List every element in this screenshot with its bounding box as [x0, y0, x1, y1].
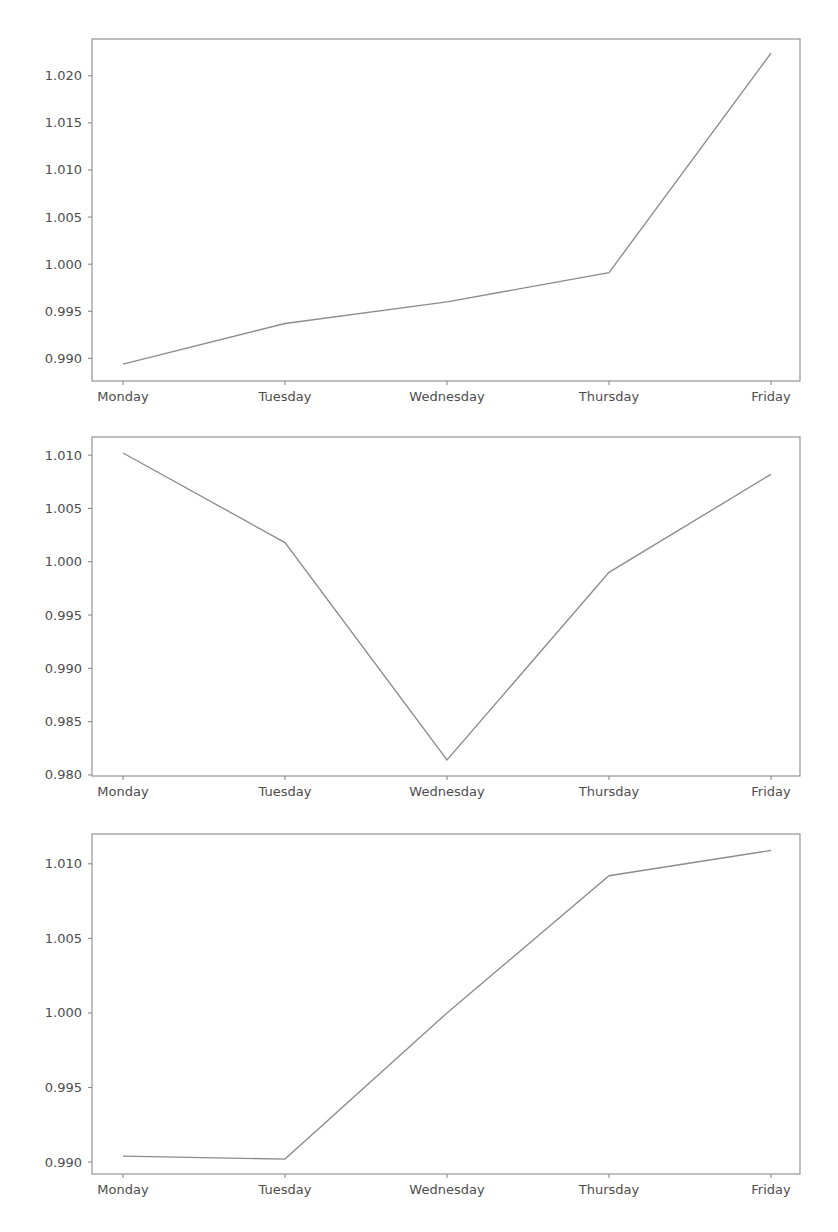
x-tick-label: Wednesday: [409, 1182, 485, 1197]
subplot-3-canvas: 0.9900.9951.0001.0051.010MondayTuesdayWe…: [0, 795, 838, 1232]
y-tick-label: 0.990: [45, 1155, 82, 1170]
subplot-3: 0.9900.9951.0001.0051.010MondayTuesdayWe…: [0, 795, 838, 1232]
y-tick-label: 1.020: [45, 68, 82, 83]
data-line-series-1: [123, 53, 771, 364]
subplot-2: 0.9800.9850.9900.9951.0001.0051.010Monda…: [0, 398, 838, 808]
x-tick-label: Friday: [751, 1182, 791, 1197]
subplot-2-canvas: 0.9800.9850.9900.9951.0001.0051.010Monda…: [0, 398, 838, 808]
subplot-1: 0.9900.9951.0001.0051.0101.0151.020Monda…: [0, 0, 838, 412]
y-tick-label: 0.990: [45, 351, 82, 366]
matplotlib-figure: 0.9900.9951.0001.0051.0101.0151.020Monda…: [0, 0, 838, 1232]
y-tick-label: 1.000: [45, 1005, 82, 1020]
y-tick-label: 0.990: [45, 661, 82, 676]
x-tick-label: Monday: [97, 1182, 149, 1197]
subplot-1-canvas: 0.9900.9951.0001.0051.0101.0151.020Monda…: [0, 0, 838, 412]
data-line-series-3: [123, 850, 771, 1159]
data-line-series-2: [123, 453, 771, 760]
y-tick-label: 0.985: [45, 714, 82, 729]
plot-frame: [92, 39, 800, 381]
y-tick-label: 1.010: [45, 162, 82, 177]
y-tick-label: 1.005: [45, 210, 82, 225]
y-tick-label: 1.010: [45, 448, 82, 463]
plot-frame: [92, 437, 800, 776]
x-tick-label: Tuesday: [258, 1182, 312, 1197]
x-tick-label: Thursday: [578, 1182, 640, 1197]
y-tick-label: 0.995: [45, 608, 82, 623]
y-tick-label: 1.000: [45, 257, 82, 272]
y-tick-label: 0.995: [45, 304, 82, 319]
y-tick-label: 1.005: [45, 501, 82, 516]
y-tick-label: 1.015: [45, 115, 82, 130]
y-tick-label: 0.980: [45, 767, 82, 782]
plot-frame: [92, 834, 800, 1174]
y-tick-label: 1.000: [45, 554, 82, 569]
y-tick-label: 1.005: [45, 931, 82, 946]
y-tick-label: 1.010: [45, 856, 82, 871]
y-tick-label: 0.995: [45, 1080, 82, 1095]
